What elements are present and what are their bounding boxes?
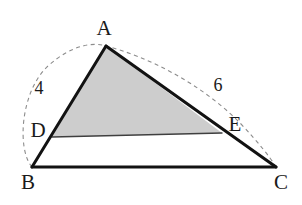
segment-bd-length-label: 4 (35, 79, 44, 97)
vertex-label-b: B (21, 172, 35, 193)
vertex-label-a: A (96, 18, 111, 39)
vertex-label-d: D (30, 120, 45, 141)
vertex-label-c: C (274, 172, 288, 193)
geometry-figure: A B C D E 4 6 (0, 0, 302, 205)
segment-ce-length-label: 6 (214, 76, 223, 94)
vertex-label-e: E (229, 114, 242, 135)
figure-canvas (0, 0, 302, 205)
